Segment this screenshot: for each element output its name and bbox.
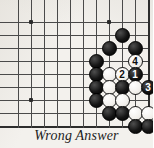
grid-line-vertical <box>70 0 71 128</box>
figure-caption: Wrong Answer <box>0 128 153 144</box>
star-point <box>29 20 33 24</box>
stone-black[interactable] <box>115 28 130 43</box>
stone-move-number: 3 <box>142 80 154 94</box>
stone-move-number: 1 <box>129 67 142 81</box>
go-problem-figure: 4213 Wrong Answer <box>0 0 153 148</box>
grid-line-vertical <box>57 0 58 128</box>
grid-line-horizontal <box>0 22 149 23</box>
grid-line-horizontal <box>0 61 149 62</box>
stone-move-number: 4 <box>129 54 142 68</box>
star-point <box>29 98 33 102</box>
grid-line-vertical <box>18 0 19 128</box>
move-stone-3[interactable]: 3 <box>141 80 154 95</box>
stone-black[interactable] <box>102 41 117 56</box>
star-point <box>107 20 111 24</box>
go-board[interactable]: 4213 <box>0 0 153 130</box>
stone-move-number: 2 <box>116 67 129 81</box>
grid-line-vertical <box>83 0 84 128</box>
grid-line-horizontal <box>0 48 149 49</box>
grid-line-vertical <box>44 0 45 128</box>
